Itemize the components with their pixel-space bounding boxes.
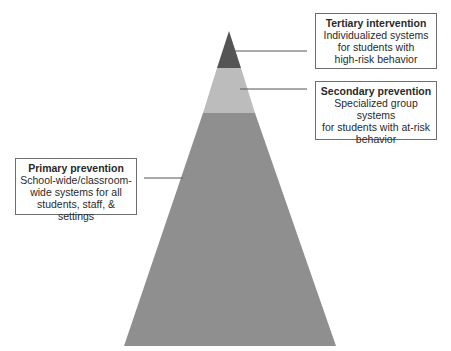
label-title-secondary: Secondary prevention bbox=[318, 85, 434, 97]
label-desc-primary-line2: wide systems for all bbox=[18, 186, 134, 198]
label-box-secondary: Secondary prevention Specialized group s… bbox=[315, 81, 437, 140]
label-title-tertiary: Tertiary intervention bbox=[318, 17, 434, 29]
label-desc-secondary-line1: Specialized group systems bbox=[318, 97, 434, 121]
label-desc-primary-line3: students, staff, & settings bbox=[18, 198, 134, 222]
label-desc-secondary-line3: behavior bbox=[318, 133, 434, 145]
pyramid-tier-primary bbox=[124, 113, 336, 346]
pyramid-tier-tertiary bbox=[217, 31, 241, 68]
pyramid-tier-secondary bbox=[203, 68, 255, 113]
label-desc-tertiary-line3: high-risk behavior bbox=[318, 53, 434, 65]
label-desc-primary-line1: School-wide/classroom- bbox=[18, 174, 134, 186]
label-title-primary: Primary prevention bbox=[18, 162, 134, 174]
label-desc-tertiary-line2: for students with bbox=[318, 41, 434, 53]
label-desc-secondary-line2: for students with at-risk bbox=[318, 121, 434, 133]
label-box-primary: Primary prevention School-wide/classroom… bbox=[15, 158, 137, 215]
label-desc-tertiary-line1: Individualized systems bbox=[318, 29, 434, 41]
label-box-tertiary: Tertiary intervention Individualized sys… bbox=[315, 13, 437, 69]
